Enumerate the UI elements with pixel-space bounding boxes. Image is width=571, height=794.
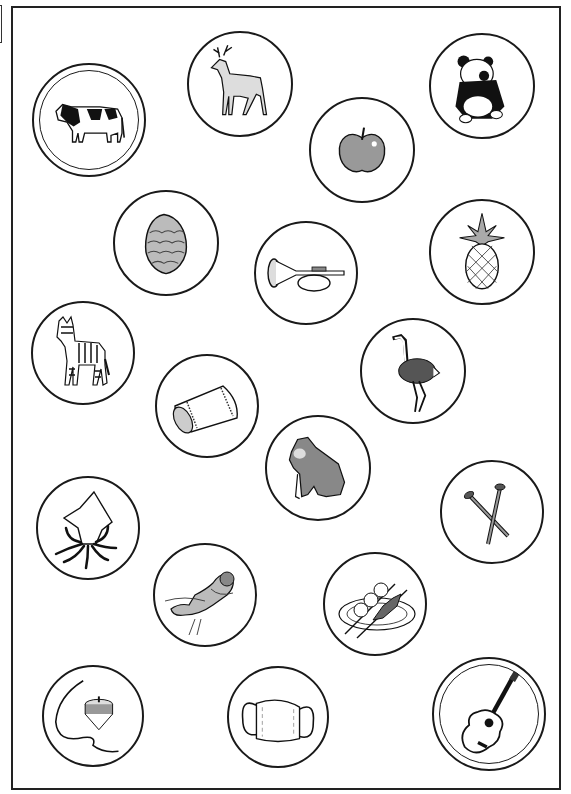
card-pinecone[interactable]: pine cone (113, 190, 219, 296)
bugle-icon (256, 223, 356, 323)
zebra-icon (33, 303, 133, 403)
knitting-needles-icon (442, 462, 542, 562)
squid-icon (38, 478, 138, 578)
card-panda[interactable]: panda (429, 33, 535, 139)
card-ostrich[interactable]: ostrich (360, 318, 466, 424)
pineapple-icon (431, 201, 533, 303)
ostrich-icon (362, 320, 464, 422)
dango-icon (325, 554, 425, 654)
pinecone-icon (115, 192, 217, 294)
apple-icon (311, 99, 413, 201)
card-zebra[interactable]: zebra (31, 301, 135, 405)
cow-icon (34, 65, 144, 175)
card-dango[interactable]: dango (323, 552, 427, 656)
card-cow[interactable]: cow (32, 63, 146, 177)
pillow-icon (157, 356, 257, 456)
mask-icon (229, 668, 327, 766)
card-deer[interactable]: deer (187, 31, 293, 137)
card-apple[interactable]: apple (309, 97, 415, 203)
card-guitar[interactable]: guitar (432, 657, 546, 771)
spinning-top-icon (44, 667, 142, 765)
card-knitting-needles[interactable]: knitting needles (440, 460, 544, 564)
card-bugle[interactable]: bugle (254, 221, 358, 325)
card-pillow[interactable]: pillow (155, 354, 259, 458)
card-mask[interactable]: mask (227, 666, 329, 768)
sea-otter-icon (155, 545, 255, 645)
panda-icon (431, 35, 533, 137)
deer-icon (189, 33, 291, 135)
guitar-icon (434, 659, 544, 769)
card-sea-otter[interactable]: sea otter (153, 543, 257, 647)
card-pineapple[interactable]: pineapple (429, 199, 535, 305)
card-squid[interactable]: squid (36, 476, 140, 580)
card-gorilla[interactable]: gorilla (265, 415, 371, 521)
gorilla-icon (267, 417, 369, 519)
card-spinning-top[interactable]: spinning top (42, 665, 144, 767)
page-edge-bracket (0, 5, 2, 43)
